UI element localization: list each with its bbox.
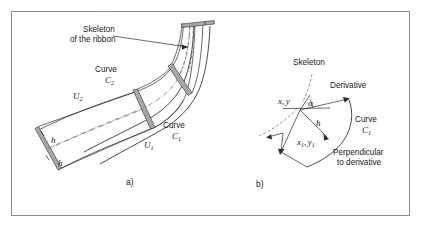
node-u2-label: U2 bbox=[73, 91, 83, 102]
angle-reference-line bbox=[283, 108, 330, 109]
panel-b-quad-bottom-edge bbox=[281, 152, 307, 167]
h-segment-line bbox=[300, 110, 327, 137]
ribbon-end-cap-top bbox=[182, 22, 206, 28]
tangent-arrow-icon bbox=[266, 134, 272, 139]
figure-container: Skeleton of the ribbon Curve C2 U2 Curve… bbox=[0, 0, 421, 229]
h-arrow-icon bbox=[324, 134, 330, 141]
thickness-label-lower: h bbox=[58, 158, 63, 168]
h-tick-lower bbox=[46, 155, 49, 160]
arrow-right-icon bbox=[182, 44, 189, 50]
curve-c2-word: Curve bbox=[95, 65, 117, 74]
perpendicular-label-line1: Perpendicular bbox=[333, 148, 384, 157]
curve-c1-word: Curve bbox=[163, 121, 185, 130]
skeleton-centerline bbox=[47, 25, 190, 150]
panel-b-group: Skeleton Derivative x,y α h x1,y1 Curve … bbox=[256, 58, 384, 189]
perpendicular-label-line2: to derivative bbox=[337, 158, 382, 167]
skeleton-callout-line1: Skeleton bbox=[83, 25, 115, 34]
point-xy-label: x,y bbox=[277, 96, 290, 106]
curve-c1-symbol: C1 bbox=[172, 131, 181, 142]
segment-a-bottom-edge bbox=[62, 128, 153, 168]
panel-b-skeleton-dash-tail bbox=[259, 108, 297, 136]
panel-b-curve-word: Curve bbox=[355, 115, 377, 124]
figure-svg: Skeleton of the ribbon Curve C2 U2 Curve… bbox=[0, 0, 421, 229]
panel-b-skeleton-label: Skeleton bbox=[293, 58, 325, 67]
panel-b-tag: b) bbox=[256, 179, 264, 189]
skeleton-callout-line2: of the ribbon bbox=[70, 35, 116, 44]
panel-b-curve-symbol: C1 bbox=[362, 125, 371, 136]
node-u1-label: U1 bbox=[144, 140, 154, 151]
curve-c2-symbol: C2 bbox=[105, 75, 114, 86]
thickness-label-upper: h bbox=[51, 135, 56, 145]
panel-a-group: Skeleton of the ribbon Curve C2 U2 Curve… bbox=[35, 21, 215, 188]
segment-a-top-edge bbox=[39, 92, 136, 127]
panel-b-h-label: h bbox=[316, 118, 321, 128]
angle-alpha-label: α bbox=[308, 98, 313, 108]
callout-leader-line bbox=[113, 36, 188, 47]
point-x1y1-label: x1,y1 bbox=[296, 137, 315, 148]
skeleton-segment-left bbox=[48, 109, 143, 148]
ribbon-end-cap-top-right bbox=[205, 21, 215, 26]
panel-b-derivative-label: Derivative bbox=[330, 81, 367, 90]
panel-a-tag: a) bbox=[126, 177, 134, 187]
derivative-arrow-icon bbox=[343, 97, 350, 103]
rib-bar-u1 bbox=[133, 89, 155, 129]
segment-b-top-edge bbox=[138, 68, 171, 89]
